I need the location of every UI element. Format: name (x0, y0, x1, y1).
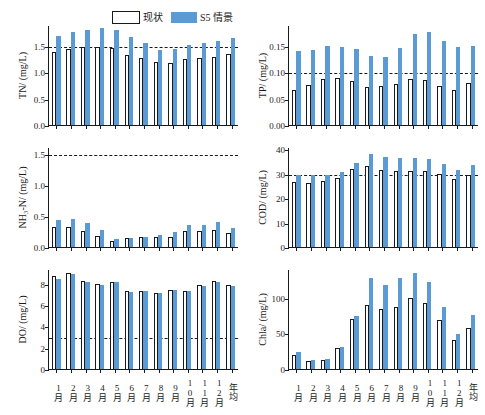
xtick-mark-tp-8 (413, 125, 414, 129)
y-axis-label-tn: TN/ (mg/L) (17, 26, 28, 126)
bar-group (136, 270, 151, 369)
xtick-mark-cod-5 (369, 247, 370, 251)
x-axis-label: 6月 (361, 375, 376, 409)
bar-tn-s5-4 (114, 30, 118, 125)
bar-do-current-9 (183, 291, 187, 369)
bar-tp-current-8 (408, 79, 412, 125)
bar-group (304, 26, 319, 125)
ytick-label-do-1: 2 (41, 344, 50, 353)
xtick-mark-cod-1 (311, 247, 312, 251)
legend-swatch-current (112, 11, 140, 24)
bar-do-current-10 (197, 285, 201, 369)
bar-group (49, 270, 64, 369)
bar-tp-s5-2 (325, 46, 329, 125)
xtick-mark-cod-3 (340, 247, 341, 251)
x-axis-label: 10月 (419, 375, 434, 409)
x-axis-label: 8月 (390, 375, 405, 409)
bar-cod-s5-1 (311, 175, 315, 247)
plot-area-cod: 010203040 (288, 148, 478, 248)
bar-chla-current-6 (379, 309, 383, 369)
bar-group (209, 270, 224, 369)
bar-nh3n-current-1 (66, 227, 70, 247)
bar-nh3n-s5-0 (56, 220, 60, 247)
chart-panel-nh3n: 0.00.51.01.5NH₃-N/ (mg/L) (0, 0, 485, 415)
ytick-label-tn-3: 1.5 (34, 43, 49, 52)
bar-tn-current-3 (95, 47, 99, 125)
bar-group (333, 148, 348, 247)
bar-tp-s5-0 (296, 51, 300, 125)
bar-cod-current-8 (408, 171, 412, 247)
bar-cod-current-1 (306, 183, 310, 247)
ytick-label-chla-1: 50 (276, 330, 289, 339)
bar-tn-current-1 (66, 49, 70, 125)
bar-tp-current-5 (365, 87, 369, 125)
bar-group (122, 270, 137, 369)
bar-tp-current-4 (350, 81, 354, 125)
bar-group (376, 26, 391, 125)
xtick-mark-tp-2 (326, 125, 327, 129)
bar-nh3n-current-0 (52, 227, 56, 247)
xtick-mark-cod-11 (457, 247, 458, 251)
plot-area-do: 02468 (48, 270, 238, 370)
y-axis-label-tp: TP/ (mg/L) (257, 26, 268, 126)
bar-group (318, 148, 333, 247)
figure-canvas: 现状 S5 情景 0.00.51.01.5TN/ (mg/L)0.000.050… (0, 0, 485, 415)
bar-group (64, 26, 79, 125)
bar-group (333, 270, 348, 369)
bar-group (194, 148, 209, 247)
ytick-label-nh3n-0: 0.0 (34, 244, 49, 253)
ytick-label-cod-4: 40 (276, 146, 289, 155)
bar-tp-current-6 (379, 86, 383, 125)
bar-group-container-cod (289, 148, 478, 247)
xtick-mark-do-7 (159, 369, 160, 373)
bar-group (151, 270, 166, 369)
bar-cod-s5-7 (398, 158, 402, 247)
xtick-mark-cod-2 (326, 247, 327, 251)
bar-cod-current-10 (437, 174, 441, 247)
xtick-mark-tp-1 (311, 125, 312, 129)
bar-group (376, 270, 391, 369)
bar-tp-s5-7 (398, 48, 402, 125)
x-axis-labels-do: 1月2月3月4月5月6月7月8月9月10月11月12月年均 (48, 375, 238, 409)
plot-area-tn: 0.00.51.01.5 (48, 26, 238, 126)
bar-chla-s5-11 (456, 334, 460, 369)
bar-nh3n-current-12 (226, 233, 230, 247)
xtick-mark-tn-4 (115, 125, 116, 129)
bar-group (405, 26, 420, 125)
bar-tp-s5-11 (456, 47, 460, 125)
bar-group-container-tp (289, 26, 478, 125)
xtick-mark-chla-1 (311, 369, 312, 373)
bar-tp-current-9 (423, 80, 427, 125)
bar-chla-current-10 (437, 320, 441, 369)
bar-cod-current-6 (379, 170, 383, 247)
xtick-mark-tn-10 (202, 125, 203, 129)
ytick-mark-tn-2 (45, 73, 49, 74)
x-axis-label: 11月 (434, 375, 449, 409)
bar-chla-current-4 (350, 319, 354, 369)
xtick-mark-tp-9 (428, 125, 429, 129)
bar-group (463, 26, 478, 125)
y-axis-label-cod: COD/ (mg/L) (257, 148, 268, 248)
x-axis-label: 9月 (405, 375, 420, 409)
bar-cod-current-12 (466, 175, 470, 247)
bar-group (194, 270, 209, 369)
xtick-mark-tn-1 (71, 125, 72, 129)
x-axis-label: 8月 (150, 375, 165, 409)
ytick-mark-tn-1 (45, 100, 49, 101)
bar-chla-current-3 (335, 348, 339, 369)
xtick-mark-do-8 (173, 369, 174, 373)
xtick-mark-do-3 (100, 369, 101, 373)
x-axis-label: 11月 (194, 375, 209, 409)
bar-group (420, 26, 435, 125)
bar-group (376, 148, 391, 247)
legend-label-s5: S5 情景 (200, 12, 233, 23)
bar-cod-s5-10 (442, 164, 446, 247)
bar-group (78, 148, 93, 247)
x-axis-label: 1月 (288, 375, 303, 409)
legend-swatch-s5 (171, 12, 197, 23)
reference-line-tn (49, 47, 238, 48)
reference-line-cod (289, 175, 478, 176)
bar-group (165, 270, 180, 369)
bar-chla-current-8 (408, 298, 412, 369)
bar-nh3n-s5-1 (71, 219, 75, 247)
